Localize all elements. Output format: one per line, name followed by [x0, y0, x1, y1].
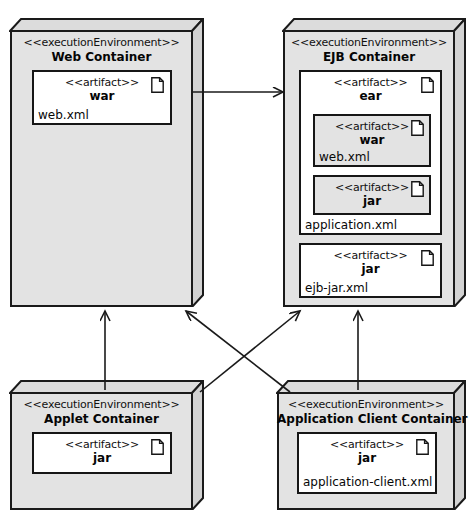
artifact-ear-descriptor: application.xml	[305, 218, 397, 232]
web-container-name: Web Container	[10, 50, 193, 65]
artifact-war-web[interactable]: <<artifact>> war web.xml	[32, 70, 172, 125]
artifact-war-ear-descriptor: web.xml	[319, 150, 370, 164]
artifact-jar-appclient-name: jar	[299, 451, 435, 465]
artifact-ear-head: <<artifact>> ear	[301, 72, 440, 104]
artifact-jar-applet-name: jar	[34, 451, 170, 465]
document-icon	[411, 181, 424, 197]
artifact-ejb-jar-stereotype: <<artifact>>	[301, 249, 440, 262]
artifact-jar-appclient[interactable]: <<artifact>> jar application-client.xml	[297, 432, 437, 494]
artifact-jar-appclient-descriptor: application-client.xml	[303, 475, 432, 489]
edge-appclient-to-web	[186, 311, 290, 392]
document-icon	[411, 120, 424, 136]
applet-container-name: Applet Container	[10, 412, 193, 427]
applet-container-stereotype: <<executionEnvironment>>	[10, 398, 193, 412]
web-container-label: <<executionEnvironment>> Web Container	[10, 36, 193, 65]
document-icon	[416, 439, 429, 455]
application-client-container-label: <<executionEnvironment>> Application Cli…	[277, 398, 455, 427]
artifact-jar-appclient-head: <<artifact>> jar	[299, 434, 435, 466]
node-applet-container[interactable]: <<executionEnvironment>> Applet Containe…	[10, 392, 193, 510]
node-application-client-container[interactable]: <<executionEnvironment>> Application Cli…	[277, 392, 455, 510]
artifact-ejb-jar-head: <<artifact>> jar	[301, 245, 440, 277]
artifact-ejb-jar-descriptor: ejb-jar.xml	[305, 281, 368, 295]
node-ejb-container[interactable]: <<executionEnvironment>> EJB Container <…	[283, 30, 455, 307]
artifact-war-web-stereotype: <<artifact>>	[34, 76, 170, 89]
document-icon	[421, 77, 434, 93]
artifact-war-web-name: war	[34, 89, 170, 103]
ejb-container-name: EJB Container	[283, 50, 455, 65]
document-icon	[151, 77, 164, 93]
artifact-ejb-jar[interactable]: <<artifact>> jar ejb-jar.xml	[299, 243, 442, 298]
node-web-container[interactable]: <<executionEnvironment>> Web Container <…	[10, 30, 193, 307]
document-icon	[151, 439, 164, 455]
deployment-diagram-canvas: <<executionEnvironment>> Web Container <…	[0, 0, 474, 528]
artifact-ear[interactable]: <<artifact>> ear <<artifact>> war web.xm…	[299, 70, 442, 235]
artifact-ear-stereotype: <<artifact>>	[301, 76, 440, 89]
artifact-ear-name: ear	[301, 89, 440, 103]
applet-container-label: <<executionEnvironment>> Applet Containe…	[10, 398, 193, 427]
web-container-stereotype: <<executionEnvironment>>	[10, 36, 193, 50]
application-client-container-name: Application Client Container	[277, 412, 455, 427]
artifact-jar-ear[interactable]: <<artifact>> jar	[313, 175, 431, 215]
application-client-container-stereotype: <<executionEnvironment>>	[277, 398, 455, 412]
artifact-jar-applet-head: <<artifact>> jar	[34, 434, 170, 466]
artifact-war-web-descriptor: web.xml	[38, 108, 89, 122]
artifact-jar-applet[interactable]: <<artifact>> jar	[32, 432, 172, 474]
artifact-ejb-jar-name: jar	[301, 262, 440, 276]
edge-applet-to-ejb	[200, 311, 300, 392]
artifact-jar-applet-stereotype: <<artifact>>	[34, 438, 170, 451]
artifact-war-web-head: <<artifact>> war	[34, 72, 170, 104]
ejb-container-stereotype: <<executionEnvironment>>	[283, 36, 455, 50]
ejb-container-label: <<executionEnvironment>> EJB Container	[283, 36, 455, 65]
artifact-war-ear[interactable]: <<artifact>> war web.xml	[313, 114, 431, 167]
artifact-jar-appclient-stereotype: <<artifact>>	[299, 438, 435, 451]
document-icon	[421, 250, 434, 266]
